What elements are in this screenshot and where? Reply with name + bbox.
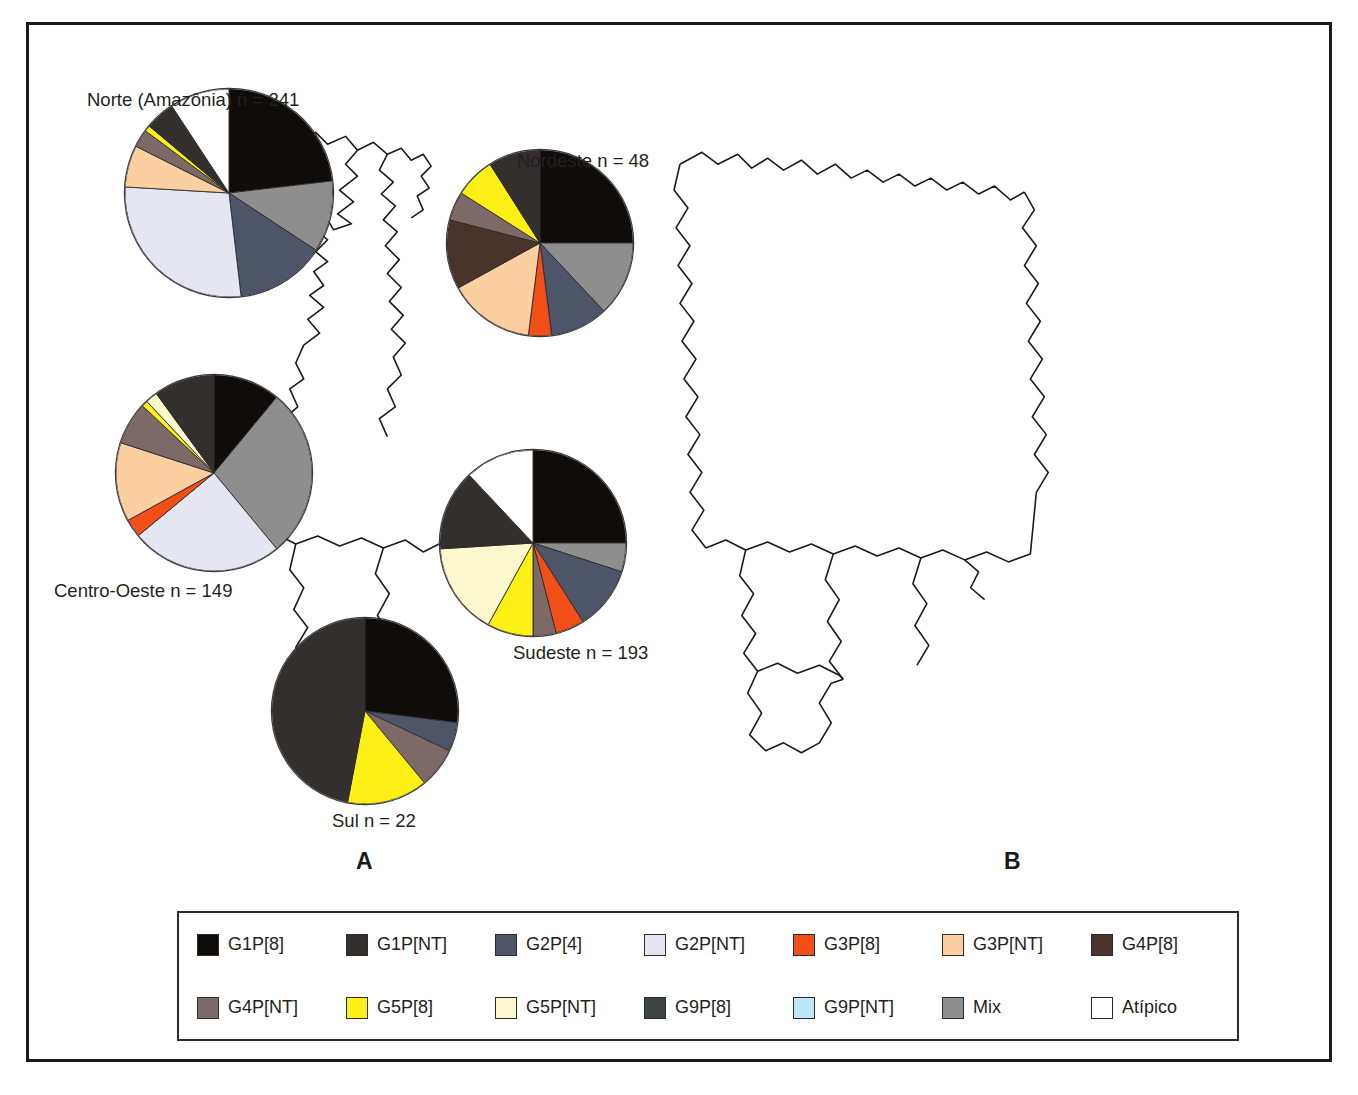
legend-label: Mix: [973, 997, 1001, 1018]
pie-chart-sudeste-a: [440, 450, 626, 636]
legend-swatch: [495, 934, 517, 956]
pie-group-nordeste-a: Nordeste n = 48: [447, 150, 633, 336]
pie-group-norte-a: Norte (Amazônia) n = 241: [125, 89, 333, 297]
panel-letter-a: A: [356, 848, 373, 875]
pie-label-sudeste-a: Sudeste n = 193: [513, 642, 648, 664]
legend-swatch: [495, 997, 517, 1019]
legend-item: G4P[8]: [1091, 934, 1240, 956]
pie-chart-nordeste-a: [447, 150, 633, 336]
legend: G1P[8]G1P[NT]G2P[4]G2P[NT]G3P[8]G3P[NT]G…: [177, 911, 1239, 1041]
legend-item: G3P[NT]: [942, 934, 1091, 956]
pie-label-centro-oeste-a: Centro-Oeste n = 149: [54, 580, 232, 602]
pie-group-sudeste-a: Sudeste n = 193: [440, 450, 626, 636]
legend-label: G1P[8]: [228, 934, 284, 955]
legend-label: G3P[8]: [824, 934, 880, 955]
pie-group-centro-oeste-a: Centro-Oeste n = 149: [116, 375, 312, 571]
pie-chart-sul-a: [272, 618, 458, 804]
legend-item: G3P[8]: [793, 934, 942, 956]
legend-item: G5P[8]: [346, 997, 495, 1019]
panel-letter-b: B: [1004, 848, 1021, 875]
legend-item: G4P[NT]: [197, 997, 346, 1019]
legend-label: G2P[NT]: [675, 934, 745, 955]
pie-group-sul-a: Sul n = 22: [272, 618, 458, 804]
pie-slice: [365, 618, 458, 723]
legend-swatch: [197, 934, 219, 956]
pie-slice: [272, 618, 365, 802]
legend-label: G4P[NT]: [228, 997, 298, 1018]
legend-item: Mix: [942, 997, 1091, 1019]
legend-item: G2P[4]: [495, 934, 644, 956]
legend-label: G1P[NT]: [377, 934, 447, 955]
legend-label: Atípico: [1122, 997, 1177, 1018]
legend-swatch: [793, 997, 815, 1019]
legend-swatch: [1091, 997, 1113, 1019]
figure-frame: Norte (Amazônia) n = 241 Nordeste n = 48…: [26, 22, 1332, 1062]
legend-row-2: G4P[NT]G5P[8]G5P[NT]G9P[8]G9P[NT]MixAtíp…: [179, 976, 1237, 1039]
legend-item: G5P[NT]: [495, 997, 644, 1019]
figure-root: Norte (Amazônia) n = 241 Nordeste n = 48…: [0, 0, 1358, 1095]
legend-label: G4P[8]: [1122, 934, 1178, 955]
legend-item: G1P[NT]: [346, 934, 495, 956]
legend-label: G9P[8]: [675, 997, 731, 1018]
legend-swatch: [942, 997, 964, 1019]
legend-item: G9P[8]: [644, 997, 793, 1019]
legend-label: G9P[NT]: [824, 997, 894, 1018]
legend-swatch: [942, 934, 964, 956]
legend-swatch: [197, 997, 219, 1019]
pie-slice: [533, 450, 626, 543]
pie-label-sul-a: Sul n = 22: [332, 810, 416, 832]
legend-label: G5P[8]: [377, 997, 433, 1018]
legend-label: G3P[NT]: [973, 934, 1043, 955]
legend-swatch: [793, 934, 815, 956]
legend-swatch: [1091, 934, 1113, 956]
legend-swatch: [346, 997, 368, 1019]
legend-swatch: [644, 934, 666, 956]
legend-swatch: [346, 934, 368, 956]
legend-item: G9P[NT]: [793, 997, 942, 1019]
pie-slice: [125, 187, 241, 297]
legend-item: Atípico: [1091, 997, 1240, 1019]
pie-label-norte-a: Norte (Amazônia) n = 241: [87, 89, 299, 111]
legend-item: G2P[NT]: [644, 934, 793, 956]
legend-label: G2P[4]: [526, 934, 582, 955]
legend-item: G1P[8]: [197, 934, 346, 956]
panel-a: Norte (Amazônia) n = 241 Nordeste n = 48…: [29, 25, 679, 855]
legend-label: G5P[NT]: [526, 997, 596, 1018]
panel-b: Nordeste n = 326 Centro-Oeste n = 220 Su…: [679, 25, 1331, 855]
legend-swatch: [644, 997, 666, 1019]
pie-chart-centro-oeste-a: [116, 375, 312, 571]
pie-label-nordeste-a: Nordeste n = 48: [517, 150, 649, 172]
pie-chart-norte-amaz-nia--a: [125, 89, 333, 297]
legend-row-1: G1P[8]G1P[NT]G2P[4]G2P[NT]G3P[8]G3P[NT]G…: [179, 913, 1237, 976]
